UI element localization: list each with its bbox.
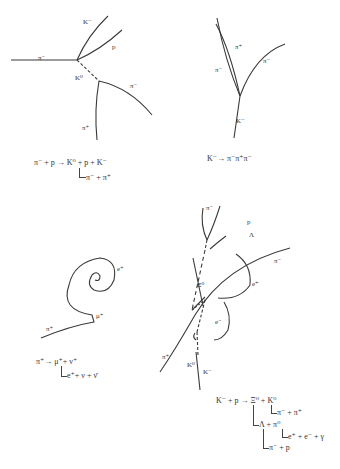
bubble-chamber-tracks <box>0 0 340 469</box>
equation-panel-2-line1: K⁻→ π⁻π⁺π⁻ <box>207 155 252 163</box>
label-e-plus: e⁺ <box>252 281 259 288</box>
label-k-minus: K⁻ <box>83 19 92 26</box>
pi-minus-pi-plus-track <box>160 248 290 372</box>
pi-minus-top-track <box>202 208 207 240</box>
equation-panel-3-line2: e⁺+ ν + ν̄ <box>67 372 97 380</box>
equation-panel-4-line1: K⁻ + p → Ξ⁰ + K⁰ <box>216 397 276 405</box>
equation-panel-4-line2: π⁻ + π⁺ <box>277 409 302 417</box>
pi-plus-track <box>216 24 240 96</box>
panel-4-tracks <box>160 206 290 390</box>
label-proton: p <box>247 219 251 226</box>
label-pi-minus-right: π⁻ <box>263 58 270 65</box>
label-e-minus: e⁻ <box>215 319 222 326</box>
label-proton: p <box>112 44 116 51</box>
label-pi-plus: π⁺ <box>82 125 89 132</box>
pi-minus-right-track <box>240 44 285 96</box>
equation-panel-4-line3: Λ + π⁰ <box>259 421 280 429</box>
k0-arrow <box>194 333 196 340</box>
lambda-track <box>210 236 226 249</box>
label-pi-minus-top: π⁻ <box>206 205 213 212</box>
label-mu-plus: μ⁺ <box>96 313 103 320</box>
equation-panel-1-line2: π⁻ + π⁺ <box>86 174 111 182</box>
label-xi0: Ξ⁰ <box>197 282 204 289</box>
equation-panel-3-line1: π⁺→ μ⁺+ ν⁺ <box>36 358 77 366</box>
label-k0: K⁰ <box>187 362 195 369</box>
label-pi-minus-out: π⁻ <box>130 83 137 90</box>
equation-panel-4-line4: e⁺ + e⁻ + γ <box>288 433 324 441</box>
label-pi-minus-incoming: π⁻ <box>38 55 45 62</box>
pi-minus-left-track <box>217 18 240 96</box>
decay-arrow <box>79 168 86 178</box>
label-pi-plus: π⁺ <box>46 326 53 333</box>
label-pi-minus-right: π⁻ <box>274 258 281 265</box>
label-pi-plus: π⁺ <box>235 44 242 51</box>
pi-minus-decay-track <box>99 81 152 115</box>
equation-panel-1-line1: π⁻ + p → K⁰ + p + K⁻ <box>34 159 107 167</box>
k-minus-track <box>196 352 200 390</box>
label-k0: K⁰ <box>75 75 83 82</box>
k-minus-track <box>77 16 108 60</box>
label-pi-minus-left: π⁻ <box>215 67 222 74</box>
label-pi-plus: π⁺ <box>162 354 169 361</box>
label-k-minus: K⁻ <box>236 118 245 125</box>
panel-2-tracks <box>216 18 285 138</box>
xi0-dashed-track <box>192 250 205 310</box>
pi-plus-decay-track <box>96 81 99 140</box>
lambda-dashed-1 <box>205 240 207 250</box>
label-e-plus: e⁺ <box>117 266 124 273</box>
e-plus-track <box>218 254 250 298</box>
equation-panel-4-line5: π⁻ + p <box>269 444 290 452</box>
label-lambda: Λ <box>249 232 254 239</box>
label-k-minus: K⁻ <box>203 369 212 376</box>
